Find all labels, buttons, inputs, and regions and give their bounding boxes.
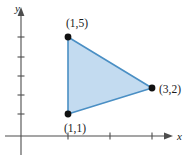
y-axis-label: y bbox=[14, 2, 20, 14]
x-axis-label: x bbox=[176, 130, 182, 142]
x-axis-arrowhead bbox=[164, 133, 173, 140]
point-label-top-left: (1,5) bbox=[66, 17, 88, 30]
point-label-bottom-left: (1,1) bbox=[64, 122, 86, 135]
point-label-right: (3,2) bbox=[159, 83, 181, 96]
vertex-dot-bottom-left bbox=[65, 111, 72, 118]
figure-canvas: y x (1,5) (3,2) (1,1) bbox=[0, 0, 187, 161]
vertex-dot-top-left bbox=[65, 34, 72, 41]
triangle-region bbox=[68, 37, 152, 114]
vertex-dot-right bbox=[149, 85, 156, 92]
coordinate-plane-figure: y x (1,5) (3,2) (1,1) bbox=[0, 0, 187, 161]
